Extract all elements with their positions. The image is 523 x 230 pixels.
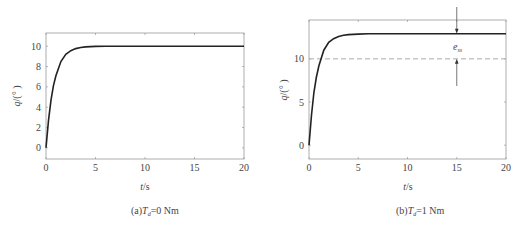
figure: 051015200246810 t/s q/(° ) (a)Td=0 Nm 05… [0,0,523,230]
x-tick-label: 15 [190,162,200,173]
steady-state-error-annotation: ess [453,7,463,86]
ess-label: ess [453,41,463,53]
x-tick-label: 20 [239,162,249,173]
arrow-up-icon [455,59,459,64]
panel-a-response-curve [46,46,244,148]
y-tick-label: 6 [36,81,41,92]
x-tick-label: 5 [93,162,98,173]
y-tick-label: 0 [299,140,304,151]
panel-b-response-curve [309,34,506,145]
x-tick-label: 20 [501,162,511,173]
y-tick-label: 10 [31,41,41,52]
x-tick-label: 10 [403,162,413,173]
x-tick-label: 10 [140,162,150,173]
x-tick-label: 0 [307,162,312,173]
panel-b-y-axis-label: q/(° ) [278,80,290,101]
panel-b-chart: 051015200510 ess t/s q/(° ) (b)Td=1 Nm [278,7,511,217]
panel-a-axes-box [46,33,244,159]
panel-b-axes-box [309,20,506,159]
y-tick-label: 10 [294,53,304,64]
panel-b-x-axis-label: t/s [403,181,413,192]
x-tick-label: 0 [44,162,49,173]
panel-a-caption: (a)Td=0 Nm [131,205,179,217]
panel-b-tick-labels: 051015200510 [294,53,511,173]
panel-a-chart: 051015200246810 t/s q/(° ) (a)Td=0 Nm [11,33,249,217]
panel-a-tick-labels: 051015200246810 [31,41,249,173]
x-tick-label: 5 [356,162,361,173]
panel-b-caption: (b)Td=1 Nm [396,205,445,217]
y-tick-label: 2 [36,122,41,133]
panel-b-ticks [309,20,506,159]
x-tick-label: 15 [452,162,462,173]
y-tick-label: 5 [299,97,304,108]
y-tick-label: 0 [36,142,41,153]
panel-a-y-axis-label: q/(° ) [11,86,23,107]
panel-a-x-axis-label: t/s [140,181,150,192]
panel-a-ticks [46,33,244,159]
y-tick-label: 4 [36,102,41,113]
y-tick-label: 8 [36,61,41,72]
